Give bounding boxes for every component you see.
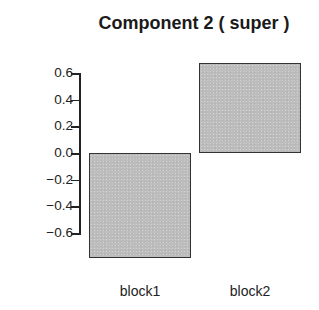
y-tick-label: 0.4 — [54, 93, 73, 107]
x-category-label: block1 — [89, 283, 191, 299]
y-tick-label: 0.0 — [54, 146, 73, 160]
bar-block2 — [199, 63, 301, 153]
bar-block1 — [89, 153, 191, 258]
chart-title: Component 2 ( super ) — [0, 13, 319, 34]
y-tick-label: 0.2 — [54, 119, 73, 133]
x-category-label: block2 — [199, 283, 301, 299]
y-tick-label: −0.6 — [46, 226, 73, 240]
y-tick-label: 0.6 — [54, 66, 73, 80]
y-tick-label: −0.2 — [46, 173, 73, 187]
y-tick-label: −0.4 — [46, 199, 73, 213]
